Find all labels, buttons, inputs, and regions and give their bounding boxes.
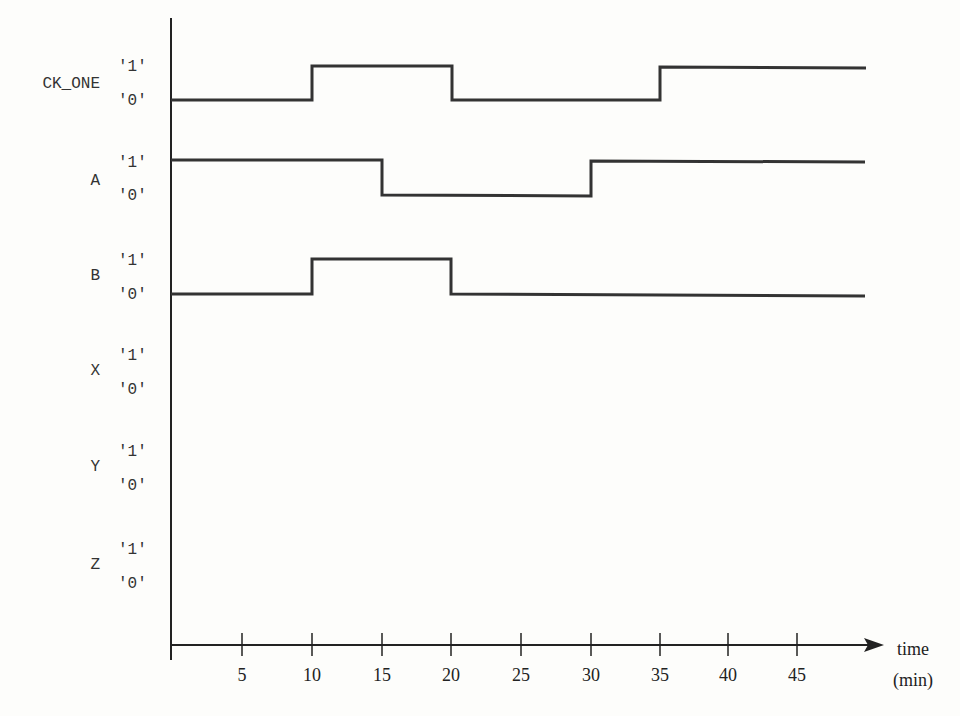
level-low-label: '0' [118, 187, 147, 205]
signal-name-x: X [90, 362, 100, 380]
level-labels: '1' '0' '1' '0' '1' '0' '1' '0' '1' '0' … [118, 58, 147, 593]
waveform-a [171, 160, 865, 196]
tick-label: 10 [303, 665, 321, 685]
level-low-label: '0' [118, 477, 147, 495]
timing-diagram: 5 10 15 20 25 30 35 40 45 time (min) CK_… [0, 0, 960, 716]
level-high-label: '1' [118, 252, 147, 270]
signal-name-y: Y [90, 458, 100, 476]
tick-label: 5 [238, 665, 247, 685]
level-low-label: '0' [118, 381, 147, 399]
waveform-b [171, 259, 865, 296]
level-low-label: '0' [118, 92, 147, 110]
tick-label: 25 [512, 665, 530, 685]
signal-name-z: Z [90, 556, 100, 574]
tick-label: 15 [373, 665, 391, 685]
level-low-label: '0' [118, 286, 147, 304]
tick-label: 40 [719, 665, 737, 685]
level-high-label: '1' [118, 347, 147, 365]
waveform-ck-one [171, 66, 866, 100]
tick-label: 30 [582, 665, 600, 685]
tick-label: 45 [788, 665, 806, 685]
time-axis-tick-labels: 5 10 15 20 25 30 35 40 45 [238, 665, 807, 685]
level-low-label: '0' [118, 575, 147, 593]
time-axis-unit: (min) [893, 670, 933, 691]
signal-name-b: B [90, 267, 100, 285]
level-high-label: '1' [118, 58, 147, 76]
level-high-label: '1' [118, 443, 147, 461]
tick-label: 35 [651, 665, 669, 685]
tick-label: 20 [442, 665, 460, 685]
time-axis-label: time [897, 639, 929, 659]
signal-name-ck-one: CK_ONE [42, 75, 100, 93]
level-high-label: '1' [118, 154, 147, 172]
signal-name-a: A [90, 172, 100, 190]
level-high-label: '1' [118, 541, 147, 559]
